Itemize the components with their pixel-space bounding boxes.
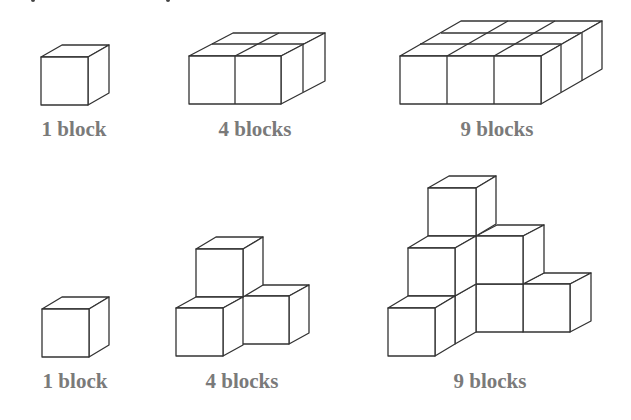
label-1-block-stack: 1 block (43, 369, 108, 394)
label-1-block-flat: 1 block (42, 117, 107, 142)
cube-1-stack (42, 297, 109, 357)
cube-1-flat (41, 45, 109, 105)
slab-2x2 (189, 33, 325, 104)
stack-9 (388, 176, 591, 356)
slab-3x3 (400, 21, 602, 104)
label-4-blocks-flat: 4 blocks (219, 117, 292, 142)
stack-4 (176, 237, 309, 356)
label-4-blocks-stack: 4 blocks (206, 369, 279, 394)
label-9-blocks-flat: 9 blocks (461, 117, 534, 142)
label-9-blocks-stack: 9 blocks (454, 369, 527, 394)
blocks-diagram (0, 0, 631, 420)
